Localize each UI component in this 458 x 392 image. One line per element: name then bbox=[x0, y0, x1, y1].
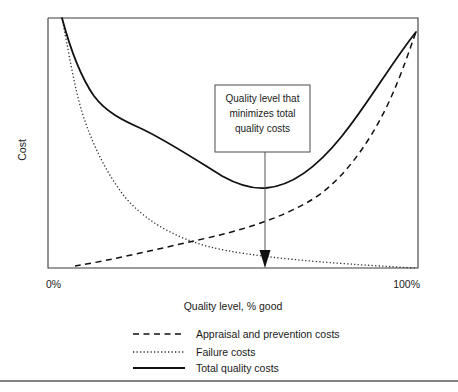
minimum-point-arrow bbox=[260, 152, 271, 268]
x-axis-tick-left: 0% bbox=[46, 278, 61, 290]
annotation-callout-box: Quality level that minimizes total quali… bbox=[215, 85, 310, 152]
annotation-line-1: Quality level that bbox=[226, 93, 300, 104]
y-axis-label: Cost bbox=[16, 139, 28, 161]
annotation-line-3: quality costs bbox=[235, 123, 290, 134]
x-axis-tick-right: 100% bbox=[393, 278, 420, 290]
legend-item-total-quality-costs: Total quality costs bbox=[133, 362, 279, 374]
x-axis-label: Quality level, % good bbox=[184, 300, 283, 312]
chart-canvas: Quality level that minimizes total quali… bbox=[0, 0, 458, 392]
annotation-line-2: minimizes total bbox=[229, 108, 295, 119]
legend-label-failure-costs: Failure costs bbox=[196, 346, 256, 358]
chart-legend: Appraisal and prevention costs Failure c… bbox=[133, 328, 340, 374]
quality-cost-chart-figure: Quality level that minimizes total quali… bbox=[0, 0, 458, 392]
legend-item-appraisal-and-prevention-costs: Appraisal and prevention costs bbox=[133, 328, 340, 340]
legend-label-appraisal-and-prevention-costs: Appraisal and prevention costs bbox=[196, 328, 340, 340]
legend-item-failure-costs: Failure costs bbox=[133, 346, 256, 358]
legend-label-total-quality-costs: Total quality costs bbox=[196, 362, 279, 374]
